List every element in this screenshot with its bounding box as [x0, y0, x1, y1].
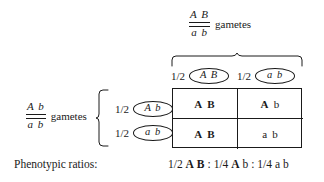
left-parent-genotype: A b a b	[26, 101, 46, 131]
ratio-1-first-allele: A	[186, 158, 194, 170]
top-brace-icon	[170, 52, 304, 67]
ratio-3-fraction: 1/4	[257, 158, 272, 170]
left-parent-gametes-word: gametes	[51, 110, 87, 122]
punnett-grid: A B A b A B a b	[172, 88, 302, 148]
cell-1-1-second-allele: B	[207, 98, 216, 110]
punnett-cell-2-1: A B	[173, 119, 238, 149]
column-2-frequency: 1/2	[237, 70, 251, 82]
left-parent-upper-alleles: A b	[26, 101, 46, 113]
phenotypic-ratios-values: 1/2 A B:1/4 A b:1/4 a b	[168, 158, 289, 170]
row-2-frequency: 1/2	[115, 127, 129, 139]
column-1-frequency: 1/2	[171, 70, 185, 82]
ratio-2-fraction: 1/4	[214, 158, 229, 170]
row-1-frequency: 1/2	[115, 103, 129, 115]
cell-1-1-first-allele: A	[194, 98, 203, 110]
row-1-gamete-oval: A b	[133, 101, 173, 117]
cell-1-2-second-allele: b	[274, 98, 281, 110]
top-parent-gametes-word: gametes	[215, 18, 251, 30]
cell-2-1-second-allele: B	[207, 128, 216, 140]
top-parent-upper-alleles: A B	[189, 9, 210, 21]
cell-2-2-second-allele: b	[272, 128, 279, 140]
punnett-cell-1-2: A b	[238, 89, 303, 119]
column-header-1: 1/2 A B	[171, 68, 229, 84]
top-parent-lower-alleles: a b	[190, 27, 209, 39]
row-header-2: 1/2 a b	[115, 125, 173, 141]
ratio-3-first-allele: a	[275, 158, 280, 170]
punnett-cell-1-1: A B	[173, 89, 238, 119]
ratio-2-first-allele: A	[231, 158, 239, 170]
cell-2-1-first-allele: A	[194, 128, 203, 140]
punnett-cell-2-2: a b	[238, 119, 303, 149]
ratio-separator-2: :	[248, 158, 257, 170]
left-parent-lower-alleles: a b	[27, 119, 46, 131]
ratio-1-fraction: 1/2	[168, 158, 183, 170]
ratio-separator-1: :	[204, 158, 213, 170]
cell-1-2-first-allele: A	[261, 98, 270, 110]
left-brace-icon	[95, 89, 109, 147]
punnett-square-diagram: A B a b gametes 1/2 A B 1/2 a b A b a b …	[0, 0, 324, 182]
column-header-2: 1/2 a b	[237, 68, 295, 84]
ratio-3-second-allele: b	[283, 158, 289, 170]
left-parent-genotype-label: A b a b gametes	[26, 101, 87, 131]
top-parent-genotype: A B a b	[189, 9, 210, 39]
phenotypic-ratios-label: Phenotypic ratios:	[14, 158, 97, 170]
column-1-gamete-oval: A B	[189, 68, 229, 84]
column-2-gamete-oval: a b	[255, 68, 295, 84]
top-parent-genotype-label: A B a b gametes	[189, 9, 251, 39]
cell-2-2-first-allele: a	[262, 128, 268, 140]
row-2-gamete-oval: a b	[133, 125, 173, 141]
row-header-1: 1/2 A b	[115, 101, 173, 117]
